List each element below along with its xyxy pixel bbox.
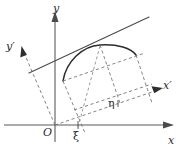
y-prime-axis-label: y′ [6, 41, 15, 52]
figure-container: y y′ x′ x O ξ η [0, 0, 184, 160]
origin-label: O [43, 127, 52, 138]
diagram-canvas [0, 0, 184, 160]
y-axis-group [52, 11, 59, 142]
x-axis-group [4, 121, 174, 128]
x-axis-label: x [168, 135, 174, 146]
x-prime-axis-line [55, 91, 155, 125]
x-axis-arrow-icon [163, 121, 174, 128]
projection-peak-to-xprime [100, 45, 120, 103]
x-prime-axis-arrow-icon [152, 86, 164, 93]
projection-right-to-xprime [136, 55, 152, 103]
y-prime-axis-line [25, 55, 55, 125]
projection-peak-vertical [78, 46, 100, 127]
arc-curve [63, 45, 136, 81]
y-axis-label: y [53, 3, 59, 14]
y-prime-axis-arrow-icon [20, 46, 27, 58]
x-prime-axis-label: x′ [163, 80, 172, 91]
tangent-line [29, 17, 149, 73]
eta-label: η [108, 98, 115, 109]
y-prime-axis-group [20, 46, 55, 125]
xi-label: ξ [73, 131, 79, 142]
